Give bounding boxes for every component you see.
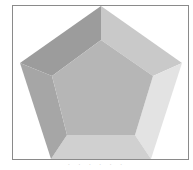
facet-bottom: [51, 135, 151, 159]
caption: · · · · · ·: [0, 161, 193, 170]
beveled-pentagon: [0, 0, 193, 170]
